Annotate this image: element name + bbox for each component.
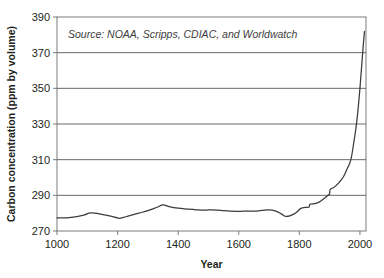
y-axis-title: Carbon concentration (ppm by volume)	[5, 26, 17, 222]
x-tick-label-1600: 1600	[227, 238, 251, 250]
y-tick-label-330: 330	[32, 118, 50, 130]
chart-canvas: 270290310330350370390 100012001400160018…	[0, 0, 384, 278]
x-axis-title: Year	[200, 258, 222, 270]
y-axis-ticks: 270290310330350370390	[32, 11, 57, 237]
y-tick-label-350: 350	[32, 82, 50, 94]
x-axis-ticks: 100012001400160018002000	[45, 231, 372, 250]
y-tick-label-310: 310	[32, 154, 50, 166]
x-tick-label-1800: 1800	[287, 238, 311, 250]
y-tick-label-370: 370	[32, 47, 50, 59]
x-tick-label-1000: 1000	[45, 238, 69, 250]
x-tick-label-1400: 1400	[166, 238, 190, 250]
x-tick-label-1200: 1200	[105, 238, 129, 250]
y-tick-label-390: 390	[32, 11, 50, 23]
carbon-concentration-chart: 270290310330350370390 100012001400160018…	[0, 0, 384, 278]
x-tick-label-2000: 2000	[348, 238, 372, 250]
y-tick-label-270: 270	[32, 225, 50, 237]
source-annotation: Source: NOAA, Scripps, CDIAC, and Worldw…	[68, 28, 297, 40]
y-tick-label-290: 290	[32, 189, 50, 201]
